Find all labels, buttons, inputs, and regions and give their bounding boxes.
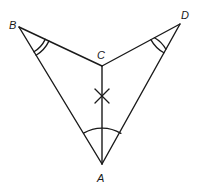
angle-mark-b [34, 39, 49, 55]
label-b: B [9, 19, 16, 31]
angle-mark-d [151, 38, 166, 53]
geometry-diagram: B C D A [0, 0, 202, 192]
label-a: A [96, 172, 104, 184]
label-d: D [181, 9, 189, 21]
segment-ba [19, 27, 102, 164]
label-c: C [97, 49, 105, 61]
